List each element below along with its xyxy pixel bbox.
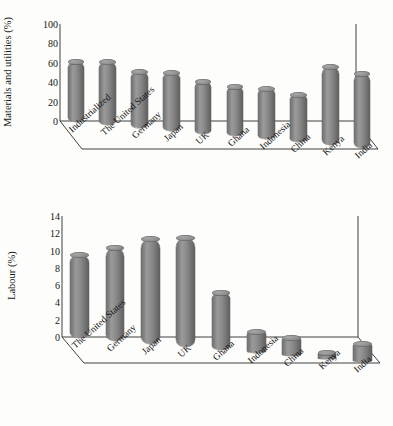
x-label-labour-7: Kenya [317, 347, 342, 371]
y-axis-label-materials: Materials and utilities (%) [2, 16, 13, 128]
x-label-labour-5: Indonesia [246, 333, 280, 365]
plot-area-labour: 02468101214 The United StatesGermanyJapa… [28, 206, 388, 406]
x-label-materials-9: India [353, 140, 374, 161]
x-label-labour-3: UK [176, 343, 193, 360]
x-label-labour-8: India [352, 353, 373, 374]
chart-materials-and-utilities: Materials and utilities (%) 020406080100… [0, 8, 393, 198]
x-label-labour-2: Japan [140, 335, 163, 357]
top-cropped-text [10, 0, 340, 7]
x-label-materials-3: Japan [162, 121, 185, 143]
x-label-materials-6: Indonesia [258, 119, 292, 151]
y-axis-label-labour: Labour (%) [6, 212, 17, 340]
x-label-labour-6: China [282, 346, 306, 369]
x-label-materials-4: UK [194, 129, 211, 146]
x-label-labour-1: Germany [105, 323, 138, 354]
x-label-materials-7: China [289, 132, 313, 155]
x-label-materials-2: Germany [130, 109, 163, 140]
x-axis-labels-materials: IndustrializedThe United StatesGermanyJa… [26, 16, 388, 191]
x-label-materials-5: Ghana [226, 125, 251, 149]
x-label-labour-4: Ghana [211, 338, 236, 362]
plot-area-materials: 020406080100 IndustrializedThe United St… [26, 16, 388, 191]
chart-page: Materials and utilities (%) 020406080100… [0, 0, 393, 426]
x-label-materials-8: Kenya [321, 133, 346, 157]
chart-labour: Labour (%) 02468101214 The United States… [0, 198, 393, 426]
x-axis-labels-labour: The United StatesGermanyJapanUKGhanaIndo… [28, 206, 388, 406]
